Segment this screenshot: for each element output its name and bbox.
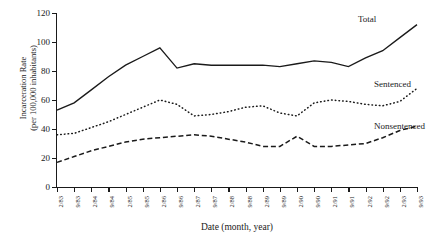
- series-label-total: Total: [358, 14, 376, 24]
- x-tick: [314, 187, 315, 192]
- x-tick-label: 2/88: [228, 196, 235, 207]
- x-tick: [228, 187, 229, 192]
- x-tick-label: 9/90: [314, 196, 321, 207]
- x-tick-label: 9/91: [348, 196, 355, 207]
- x-tick: [263, 187, 264, 192]
- x-tick-label: 2/87: [194, 196, 201, 207]
- x-tick-label: 2/83: [57, 196, 64, 207]
- x-tick-label: 9/83: [74, 196, 81, 207]
- line-sentenced: [57, 88, 417, 134]
- series-label-nonsentenced: Nonsentenced: [374, 121, 425, 131]
- x-tick: [126, 187, 127, 192]
- x-tick: [383, 187, 384, 192]
- y-axis-title-line2: (per 100,000 inhabitants): [28, 8, 38, 168]
- y-tick-label: 100: [37, 37, 51, 47]
- x-tick-label: 9/85: [142, 196, 149, 207]
- plot-area: 020406080100120 2/839/832/849/842/859/85…: [57, 13, 417, 187]
- incarceration-rate-line-chart: Incarceration Rate (per 100,000 inhabita…: [0, 0, 441, 242]
- x-tick-label: 9/86: [177, 196, 184, 207]
- series-lines: [57, 13, 417, 187]
- x-tick-label: 9/88: [245, 196, 252, 207]
- x-tick-label: 2/91: [331, 196, 338, 207]
- x-tick: [177, 187, 178, 192]
- x-tick: [417, 187, 418, 192]
- y-tick-label: 20: [41, 153, 50, 163]
- y-tick-label: 40: [41, 124, 50, 134]
- y-axis-title-line1: Incarceration Rate: [18, 8, 28, 168]
- x-tick-label: 9/93: [417, 196, 424, 207]
- x-tick: [246, 187, 247, 192]
- x-tick-label: 9/87: [211, 196, 218, 207]
- x-tick-label: 9/92: [382, 196, 389, 207]
- x-tick-label: 2/85: [125, 196, 132, 207]
- x-tick: [211, 187, 212, 192]
- y-tick-label: 0: [46, 182, 51, 192]
- x-tick: [91, 187, 92, 192]
- x-tick: [160, 187, 161, 192]
- x-tick-label: 2/84: [91, 196, 98, 207]
- x-tick-label: 2/89: [262, 196, 269, 207]
- series-label-sentenced: Sentenced: [374, 79, 411, 89]
- y-tick-label: 60: [41, 95, 50, 105]
- x-tick-label: 9/89: [279, 196, 286, 207]
- x-tick-label: 2/90: [297, 196, 304, 207]
- y-axis-title: Incarceration Rate (per 100,000 inhabita…: [18, 8, 38, 168]
- x-tick: [194, 187, 195, 192]
- y-tick-label: 120: [37, 8, 51, 18]
- x-tick-label: 2/92: [365, 196, 372, 207]
- x-tick: [57, 187, 58, 192]
- x-tick: [331, 187, 332, 192]
- x-tick: [366, 187, 367, 192]
- line-nonsentenced: [57, 126, 417, 162]
- y-tick-label: 80: [41, 66, 50, 76]
- x-tick: [297, 187, 298, 192]
- x-tick-label: 2/86: [159, 196, 166, 207]
- x-tick-label: 9/84: [108, 196, 115, 207]
- x-tick: [143, 187, 144, 192]
- x-tick-label: 2/93: [399, 196, 406, 207]
- x-tick: [108, 187, 109, 192]
- x-tick: [280, 187, 281, 192]
- x-tick: [74, 187, 75, 192]
- x-tick: [348, 187, 349, 192]
- x-axis-title: Date (month, year): [57, 222, 417, 232]
- line-total: [57, 25, 417, 111]
- x-tick: [400, 187, 401, 192]
- x-axis-line: [56, 187, 417, 188]
